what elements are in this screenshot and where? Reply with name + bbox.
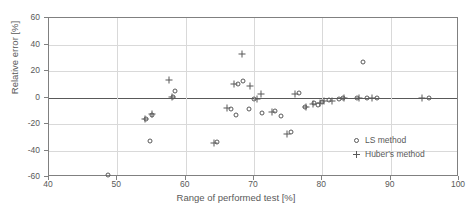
- x-axis-tick-labels: 405060708090100: [0, 0, 472, 216]
- x-tick-mark: [321, 176, 322, 180]
- y-tick-mark: [44, 150, 48, 151]
- x-tick-mark: [185, 176, 186, 180]
- x-tick-mark: [253, 176, 254, 180]
- y-tick-mark: [44, 17, 48, 18]
- x-tick-mark: [458, 176, 459, 180]
- y-axis-title: Relative error [%]: [9, 0, 20, 128]
- x-tick-label: 90: [385, 180, 394, 189]
- chart-legend: LS method Huber's method: [352, 133, 452, 161]
- x-tick-label: 100: [451, 180, 465, 189]
- legend-item-hubers-method: Huber's method: [352, 147, 452, 161]
- x-tick-mark: [116, 176, 117, 180]
- x-tick-label: 60: [180, 180, 189, 189]
- x-tick-label: 70: [248, 180, 257, 189]
- x-axis-title: Range of performed test [%]: [0, 192, 472, 203]
- y-tick-mark: [44, 44, 48, 45]
- x-tick-label: 40: [43, 180, 52, 189]
- y-tick-mark: [44, 123, 48, 124]
- legend-label: LS method: [365, 135, 406, 145]
- x-tick-label: 50: [112, 180, 121, 189]
- x-tick-mark: [390, 176, 391, 180]
- legend-item-ls-method: LS method: [352, 133, 452, 147]
- plus-marker-icon: [352, 149, 362, 159]
- circle-marker-icon: [352, 135, 362, 145]
- x-tick-label: 80: [317, 180, 326, 189]
- x-tick-mark: [48, 176, 49, 180]
- y-tick-mark: [44, 97, 48, 98]
- legend-label: Huber's method: [365, 149, 425, 159]
- y-tick-mark: [44, 70, 48, 71]
- chart-figure: 6040200-20-40-60 405060708090100 Range o…: [0, 0, 472, 216]
